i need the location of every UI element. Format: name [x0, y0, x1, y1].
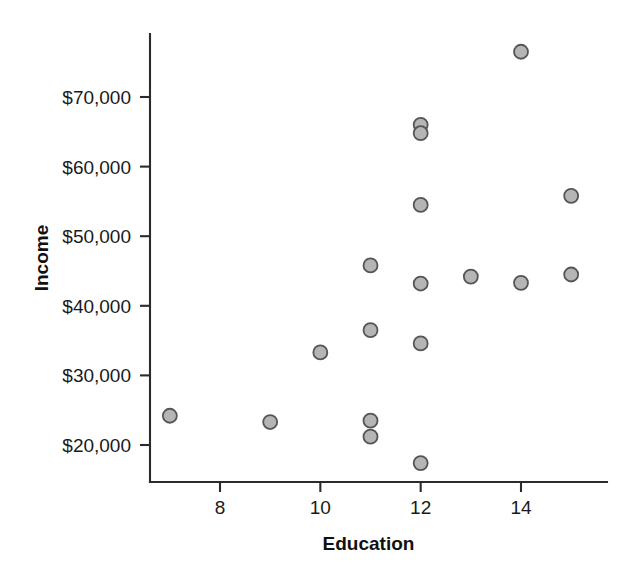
- y-axis-ticks: $20,000$30,000$40,000$50,000$60,000$70,0…: [62, 87, 150, 456]
- x-tick-label-1: 10: [310, 497, 331, 518]
- y-tick-label-2: $40,000: [62, 296, 131, 317]
- data-point: [364, 323, 378, 337]
- data-point: [414, 336, 428, 350]
- data-point: [414, 126, 428, 140]
- data-point: [414, 456, 428, 470]
- x-tick-label-3: 14: [510, 497, 532, 518]
- data-point: [263, 415, 277, 429]
- data-point: [364, 258, 378, 272]
- axes-group: [150, 34, 607, 482]
- data-points-group: [163, 45, 578, 470]
- x-tick-label-0: 8: [215, 497, 226, 518]
- data-point: [514, 45, 528, 59]
- data-point: [414, 198, 428, 212]
- y-tick-label-3: $50,000: [62, 226, 131, 247]
- y-tick-label-5: $70,000: [62, 87, 131, 108]
- data-point: [564, 189, 578, 203]
- scatter-plot-figure: $20,000$30,000$40,000$50,000$60,000$70,0…: [0, 0, 620, 577]
- data-point: [163, 409, 177, 423]
- data-point: [364, 430, 378, 444]
- x-axis-ticks: 8101214: [215, 482, 532, 518]
- data-point: [313, 345, 327, 359]
- data-point: [564, 267, 578, 281]
- x-axis-title: Education: [323, 533, 415, 554]
- plot-canvas: $20,000$30,000$40,000$50,000$60,000$70,0…: [0, 0, 620, 577]
- y-tick-label-0: $20,000: [62, 435, 131, 456]
- y-tick-label-4: $60,000: [62, 157, 131, 178]
- y-axis-title: Income: [31, 225, 52, 292]
- data-point: [464, 270, 478, 284]
- data-point: [414, 277, 428, 291]
- data-point: [514, 276, 528, 290]
- x-tick-label-2: 12: [410, 497, 431, 518]
- y-tick-label-1: $30,000: [62, 365, 131, 386]
- data-point: [364, 414, 378, 428]
